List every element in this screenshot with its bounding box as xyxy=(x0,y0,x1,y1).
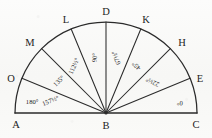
angle-label-45: 45° xyxy=(130,60,142,72)
angle-label-157-5: 157½° xyxy=(41,94,60,107)
angle-label-90: 90° xyxy=(91,52,98,62)
vertex-dot-B xyxy=(104,111,107,114)
diagram-canvas: 180°157½°135°112½°90°67½°45°22½°0° ABCOM… xyxy=(0,0,212,138)
angle-label-112-5: 112½° xyxy=(67,56,81,75)
angle-semicircle-diagram: 180°157½°135°112½°90°67½°45°22½°0° ABCOM… xyxy=(0,0,212,138)
point-label-M: M xyxy=(25,37,35,48)
point-label-A: A xyxy=(12,119,20,130)
point-label-D: D xyxy=(102,6,110,17)
angle-label-180: 180° xyxy=(26,98,39,105)
angle-label-22-5: 22½° xyxy=(144,76,160,88)
point-label-K: K xyxy=(142,14,150,25)
angle-label-135: 135° xyxy=(52,74,66,88)
angle-label-group: 180°157½°135°112½°90°67½°45°22½°0° xyxy=(26,50,183,108)
point-label-L: L xyxy=(63,14,69,25)
point-label-O: O xyxy=(7,73,15,84)
point-label-C: C xyxy=(192,119,199,130)
point-label-H: H xyxy=(178,37,186,48)
angle-label-67-5: 67½° xyxy=(110,50,122,66)
point-label-E: E xyxy=(197,73,203,84)
point-label-B: B xyxy=(102,120,109,131)
angle-label-0: 0° xyxy=(176,100,183,108)
